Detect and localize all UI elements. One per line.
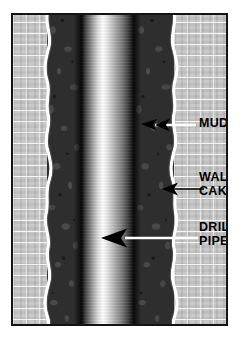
- strata-stack: [13, 15, 226, 324]
- drill-pipe-layer: [81, 13, 134, 326]
- mud-right-layer: [134, 13, 174, 326]
- callout-mud-label: MUD: [199, 117, 228, 131]
- mud-left-layer: [47, 13, 81, 326]
- borehole-cross-section-diagram: MUD WALL CAKE DRILL PIPE: [11, 13, 228, 326]
- callout-drill-pipe-label: DRILL PIPE: [199, 221, 228, 248]
- drill-pipe-sheen: [81, 13, 134, 326]
- callout-wall-cake-label: WALL CAKE: [199, 171, 228, 198]
- formation-rock-left-layer: [13, 13, 47, 326]
